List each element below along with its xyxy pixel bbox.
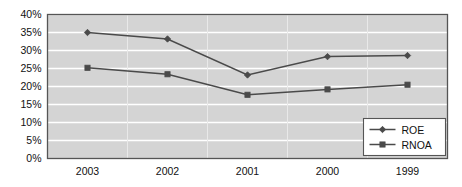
y-axis-tick-label: 40% — [20, 8, 41, 20]
legend: ROERNOA — [364, 119, 446, 156]
x-axis-tick-label: 2000 — [316, 165, 340, 177]
x-axis-tick-label: 2002 — [156, 165, 180, 177]
line-chart: 0%5%10%15%20%25%30%35%40%200320022001200… — [0, 0, 462, 187]
x-axis-labels: 20032002200120001999 — [76, 165, 420, 177]
legend-label: RNOA — [402, 139, 432, 151]
y-axis-tick-label: 5% — [26, 134, 41, 146]
square-marker-icon — [380, 142, 385, 147]
square-marker-icon — [165, 72, 170, 77]
x-axis-tick-label: 2003 — [76, 165, 100, 177]
y-axis-tick-label: 15% — [20, 98, 41, 110]
y-axis-tick-label: 25% — [20, 62, 41, 74]
y-axis-tick-label: 0% — [26, 152, 41, 164]
square-marker-icon — [325, 87, 330, 92]
square-marker-icon — [405, 82, 410, 87]
x-axis-tick-label: 2001 — [236, 165, 260, 177]
chart-canvas: 0%5%10%15%20%25%30%35%40%200320022001200… — [0, 0, 462, 187]
legend-label: ROE — [402, 124, 425, 136]
y-axis-tick-label: 30% — [20, 44, 41, 56]
x-axis-tick-label: 1999 — [396, 165, 420, 177]
y-axis-tick-label: 20% — [20, 80, 41, 92]
y-axis-labels: 0%5%10%15%20%25%30%35%40% — [20, 8, 41, 164]
square-marker-icon — [85, 65, 90, 70]
y-axis-tick-label: 10% — [20, 116, 41, 128]
y-axis-tick-label: 35% — [20, 26, 41, 38]
square-marker-icon — [245, 92, 250, 97]
